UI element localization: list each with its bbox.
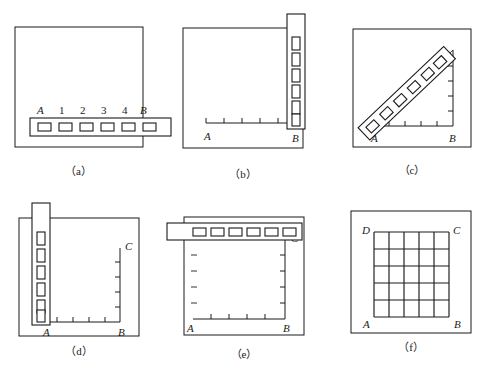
panel-a-caption: （a） <box>14 162 143 178</box>
panel-c-label-A: A <box>370 132 378 144</box>
panel-e-ruler <box>167 223 302 240</box>
panel-b: A B （b） <box>182 10 332 165</box>
panel-a-label-1: 1 <box>59 104 65 116</box>
panel-d: A B C （d） <box>14 200 154 345</box>
panel-f-label-D: D <box>361 224 370 236</box>
panel-c-caption: （c） <box>352 161 472 177</box>
panel-d-ruler <box>32 203 50 325</box>
panel-b-ruler <box>287 14 305 129</box>
panel-e-caption: （e） <box>184 345 304 361</box>
panel-a-label-2: 2 <box>80 104 86 116</box>
panel-f-caption: （f） <box>350 338 472 354</box>
panel-d-label-B: B <box>118 326 125 338</box>
panel-b-frame <box>183 28 303 148</box>
panel-e-label-A: A <box>186 322 194 334</box>
panel-e: A B C （e） <box>165 212 325 347</box>
panel-b-label-B: B <box>292 132 299 144</box>
panel-d-caption: （d） <box>14 342 144 358</box>
panel-d-label-A: A <box>42 326 50 338</box>
panel-c-label-B: B <box>449 132 456 144</box>
panel-c: A B （c） <box>352 28 482 163</box>
panel-a-label-3: 3 <box>101 104 107 116</box>
panel-a-ruler <box>30 118 171 136</box>
panel-a-label-B: B <box>140 104 147 116</box>
panel-e-label-B: B <box>283 322 290 334</box>
panel-d-label-C: C <box>125 240 133 252</box>
panel-f-label-B: B <box>454 318 461 330</box>
panel-a: A 1 2 3 4 B （a） <box>14 22 174 162</box>
panel-f-label-A: A <box>362 318 370 330</box>
panel-f: D C A B （f） <box>350 210 480 345</box>
panel-a-label-A: A <box>36 104 44 116</box>
figure-page: A 1 2 3 4 B （a） <box>0 0 489 377</box>
panel-a-label-4: 4 <box>122 104 128 116</box>
panel-b-caption: （b） <box>182 165 304 181</box>
panel-f-label-C: C <box>453 224 461 236</box>
panel-b-label-A: A <box>203 130 211 142</box>
